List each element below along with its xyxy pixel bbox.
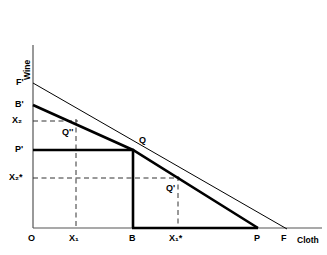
y-tick-X2-star: X₂* [9, 173, 23, 182]
x-tick-X1: X₁ [69, 234, 79, 243]
price-line-F-prime-to-F [33, 83, 287, 229]
x-tick-X1-star: X₁* [169, 234, 182, 243]
point-label-Q: Q [139, 136, 146, 145]
diagram-svg [0, 0, 327, 255]
figure-canvas: Wine Cloth F' B' X₂ P' X₂* O X₁ B X₁* P … [0, 0, 327, 255]
y-tick-F-prime: F' [16, 78, 24, 87]
y-tick-P-prime: P' [15, 145, 23, 154]
x-tick-origin: O [28, 234, 35, 243]
point-label-Q-double-prime: Q'' [62, 128, 73, 137]
x-axis-title: Cloth [297, 235, 319, 245]
point-label-Q-prime: Q' [166, 184, 175, 193]
x-tick-F: F [281, 234, 287, 243]
x-tick-P: P [254, 234, 260, 243]
x-tick-B: B [129, 234, 136, 243]
y-tick-B-prime: B' [15, 100, 24, 109]
y-tick-X2: X₂ [12, 116, 22, 125]
ppf-curve-B-prime-Q-P [33, 105, 258, 228]
